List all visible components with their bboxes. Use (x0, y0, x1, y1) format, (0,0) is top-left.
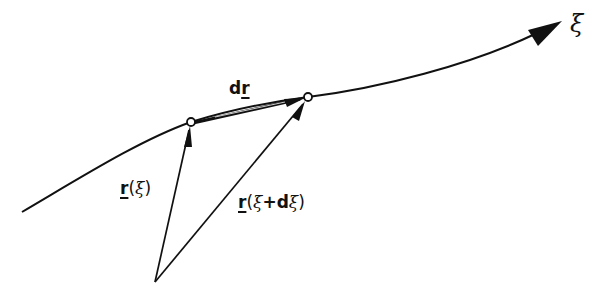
r-xi-param: ξ (135, 178, 144, 198)
dr-d: d (229, 78, 241, 98)
r-xi-close: ) (144, 178, 151, 198)
r-xi-dxi-arrowhead-icon (292, 101, 305, 121)
r-xi-label: r(ξ) (120, 178, 151, 198)
axis-label-xi: ξ (570, 10, 583, 38)
diagram-canvas (0, 0, 611, 301)
r-xi-vector (155, 130, 189, 282)
dr-label: dr (229, 78, 250, 98)
point-p2 (304, 93, 312, 101)
dr-vector-highlight (215, 102, 285, 117)
r-xi-dxi-plus: +d (262, 192, 288, 212)
dr-r: r (241, 78, 249, 98)
xi-symbol: ξ (570, 10, 583, 38)
r-xi-dxi-param: ξ (253, 192, 262, 212)
point-p1 (187, 118, 195, 126)
curve-arrowhead-icon (528, 21, 562, 46)
r-xi-dxi-param2: ξ (289, 192, 298, 212)
parametric-curve (22, 34, 535, 212)
r-xi-dxi-label: r(ξ+dξ) (238, 192, 305, 212)
r-xi-dxi-close: ) (298, 192, 305, 212)
r-xi-arrowhead-icon (184, 126, 192, 147)
